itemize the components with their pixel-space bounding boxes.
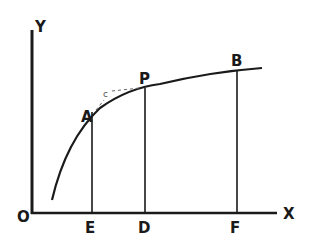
- annotation-c: c: [103, 89, 108, 99]
- origin-label: O: [17, 208, 30, 226]
- point-label-p: P: [139, 70, 150, 88]
- point-label-f: F: [230, 219, 240, 237]
- point-label-b: B: [231, 52, 242, 70]
- point-label-d: D: [138, 219, 150, 237]
- point-label-a: A: [81, 108, 93, 126]
- y-axis-label: Y: [34, 18, 47, 36]
- x-axis-label: X: [283, 205, 295, 223]
- geometry-diagram: Y X O A P B E D F c: [0, 0, 314, 245]
- point-label-e: E: [85, 219, 95, 237]
- curve: [52, 68, 262, 200]
